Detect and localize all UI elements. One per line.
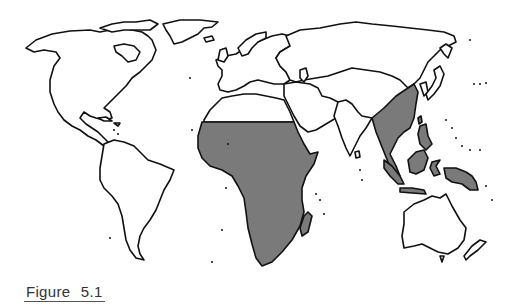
south-america <box>100 140 174 260</box>
india <box>334 100 372 156</box>
sri-lanka <box>355 151 360 158</box>
sub-saharan-africa <box>198 122 318 266</box>
north-africa <box>204 94 294 122</box>
tasmania <box>440 256 444 262</box>
philippines <box>418 124 432 150</box>
north-america <box>26 28 156 146</box>
kamchatka <box>440 44 452 58</box>
borneo <box>408 150 428 174</box>
australia <box>402 194 466 254</box>
hispaniola <box>114 123 120 126</box>
sulawesi <box>430 160 440 176</box>
figure-caption: Figure 5.1 <box>24 283 105 302</box>
new-guinea <box>444 168 478 190</box>
iceland <box>204 36 214 42</box>
world-map <box>0 0 508 308</box>
japan <box>426 66 444 100</box>
taiwan <box>418 116 422 124</box>
java <box>400 188 426 194</box>
new-zealand <box>464 240 486 260</box>
arctic-islands <box>100 20 158 32</box>
